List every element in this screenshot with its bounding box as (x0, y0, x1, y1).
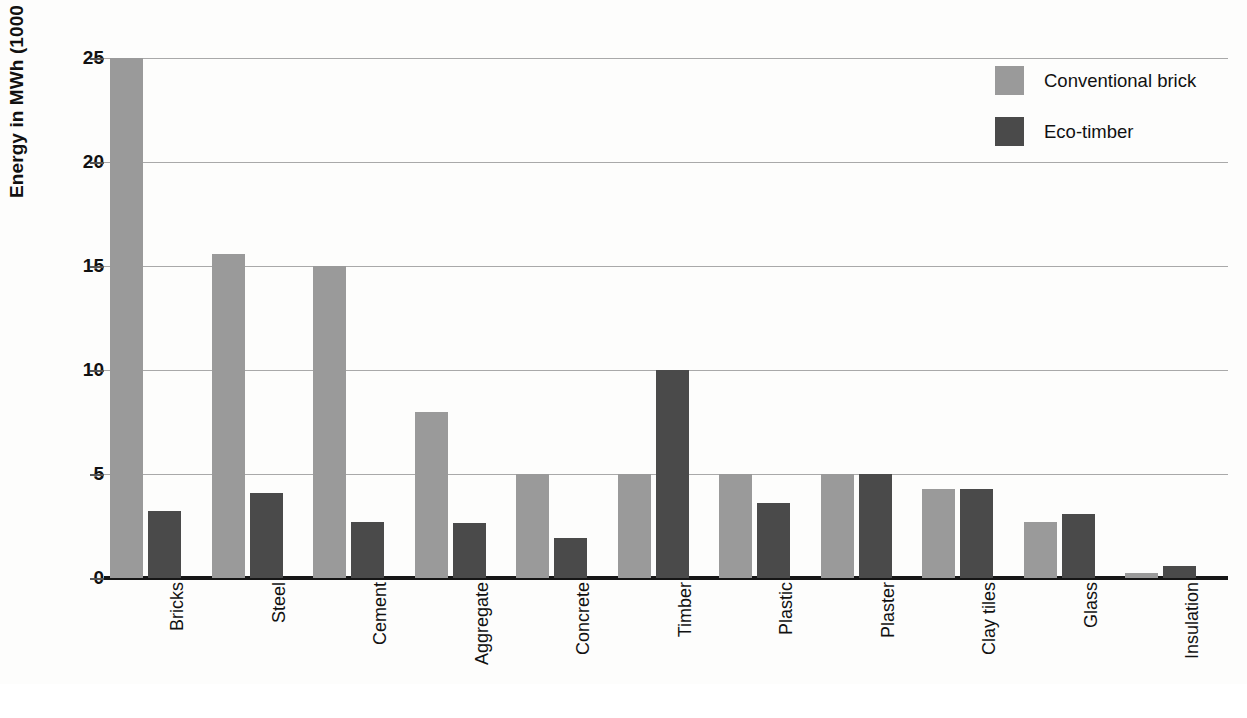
bar[interactable] (212, 254, 245, 578)
legend-swatch-conventional-icon (995, 66, 1024, 95)
x-axis-label: Clay tiles (968, 432, 986, 582)
y-tick-mark (90, 370, 104, 372)
legend-label-eco-timber: Eco-timber (1044, 121, 1133, 143)
x-axis-label: Glass (1070, 432, 1088, 582)
y-tick-mark (90, 474, 104, 476)
bar[interactable] (415, 412, 448, 578)
bar[interactable] (719, 474, 752, 578)
x-axis-label: Bricks (156, 432, 174, 582)
x-axis-label: Plastic (765, 432, 783, 582)
x-axis-label: Plaster (867, 432, 885, 582)
x-axis-label: Aggregate (461, 432, 479, 582)
legend-item-conventional-brick[interactable]: Conventional brick (995, 66, 1196, 95)
bar[interactable] (1024, 522, 1057, 578)
bar[interactable] (1125, 573, 1158, 578)
legend: Conventional brick Eco-timber (995, 66, 1196, 168)
bar[interactable] (618, 474, 651, 578)
y-tick-mark (90, 58, 104, 60)
bar[interactable] (922, 489, 955, 578)
y-tick-mark (90, 578, 104, 580)
x-axis-label: Insulation (1171, 432, 1189, 582)
bar[interactable] (821, 474, 854, 578)
x-axis-label: Cement (359, 432, 377, 582)
bar[interactable] (313, 266, 346, 578)
bar[interactable] (516, 474, 549, 578)
legend-item-eco-timber[interactable]: Eco-timber (995, 117, 1196, 146)
y-axis-ticks: 0510152025 (40, 58, 104, 578)
x-axis-label: Steel (258, 432, 276, 582)
x-axis-label: Concrete (562, 432, 580, 582)
x-axis-label: Timber (664, 432, 682, 582)
page-margin (0, 684, 1247, 718)
y-tick-mark (90, 266, 104, 268)
y-tick-mark (90, 162, 104, 164)
legend-swatch-eco-icon (995, 117, 1024, 146)
bar[interactable] (110, 58, 143, 578)
legend-label-conventional-brick: Conventional brick (1044, 70, 1196, 92)
y-axis-title: Energy in MWh (1000 kWh) (6, 0, 28, 198)
bar-chart: Energy in MWh (1000 kWh) 0510152025 Bric… (0, 0, 1247, 718)
